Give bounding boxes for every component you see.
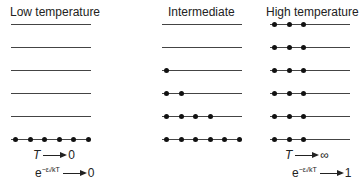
particle-dot — [301, 68, 306, 73]
high-boltzmann-limit: e−εᵢ/kT1 — [292, 166, 351, 180]
particle-dot — [71, 137, 76, 142]
particle-dot — [42, 137, 47, 142]
particle-dot — [301, 114, 306, 119]
energy-level — [11, 93, 91, 94]
particle-dot — [86, 137, 91, 142]
particle-dot — [301, 45, 306, 50]
particle-dot — [222, 137, 227, 142]
limit-value: 0 — [68, 148, 75, 162]
temperature-symbol: T — [285, 148, 292, 162]
exp-exponent: −εᵢ/kT — [299, 166, 317, 173]
particle-dot — [57, 137, 62, 142]
column-title-intermediate: Intermediate — [168, 5, 235, 19]
energy-level — [162, 139, 242, 140]
energy-level — [11, 24, 91, 25]
column-title-low: Low temperature — [10, 5, 100, 19]
energy-level — [270, 47, 350, 48]
particle-dot — [301, 137, 306, 142]
particle-dot — [179, 137, 184, 142]
energy-level — [270, 24, 350, 25]
energy-level — [270, 70, 350, 71]
exp-exponent: −εᵢ/kT — [42, 166, 60, 173]
particle-dot — [208, 137, 213, 142]
particle-dot — [193, 137, 198, 142]
particle-dot — [193, 114, 198, 119]
particle-dot — [179, 91, 184, 96]
arrow-icon — [63, 173, 85, 174]
column-title-high: High temperature — [266, 5, 359, 19]
arrow-icon — [43, 155, 65, 156]
particle-dot — [13, 137, 18, 142]
particle-dot — [237, 137, 242, 142]
energy-level — [162, 24, 242, 25]
particle-dot — [272, 68, 277, 73]
particle-dot — [272, 22, 277, 27]
energy-level — [11, 70, 91, 71]
particle-dot — [272, 45, 277, 50]
energy-level — [162, 70, 242, 71]
arrow-icon — [295, 155, 317, 156]
energy-level — [162, 116, 242, 117]
particle-dot — [164, 68, 169, 73]
particle-dot — [164, 114, 169, 119]
low-boltzmann-limit: e−εᵢ/kT0 — [35, 166, 94, 180]
high-temp-limit: T∞ — [285, 148, 329, 162]
particle-dot — [287, 45, 292, 50]
energy-level — [162, 47, 242, 48]
particle-dot — [287, 137, 292, 142]
energy-level — [11, 116, 91, 117]
low-temp-limit: T0 — [33, 148, 75, 162]
particle-dot — [208, 114, 213, 119]
particle-dot — [301, 91, 306, 96]
energy-level — [11, 139, 91, 140]
temperature-symbol: T — [33, 148, 40, 162]
particle-dot — [287, 91, 292, 96]
particle-dot — [272, 137, 277, 142]
particle-dot — [301, 22, 306, 27]
energy-level — [11, 47, 91, 48]
particle-dot — [164, 137, 169, 142]
particle-dot — [28, 137, 33, 142]
particle-dot — [164, 91, 169, 96]
particle-dot — [272, 91, 277, 96]
particle-dot — [287, 68, 292, 73]
limit-value: 0 — [88, 166, 95, 180]
limit-value: 1 — [345, 166, 352, 180]
particle-dot — [272, 114, 277, 119]
arrow-icon — [320, 173, 342, 174]
limit-value: ∞ — [320, 148, 329, 162]
particle-dot — [287, 22, 292, 27]
energy-level — [270, 93, 350, 94]
particle-dot — [179, 114, 184, 119]
energy-level — [162, 93, 242, 94]
energy-level — [270, 116, 350, 117]
exp-base: e — [35, 166, 42, 180]
energy-level — [270, 139, 350, 140]
exp-base: e — [292, 166, 299, 180]
particle-dot — [287, 114, 292, 119]
